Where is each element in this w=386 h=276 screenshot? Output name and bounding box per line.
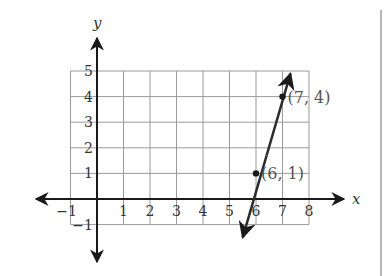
y-tick-label: 4 xyxy=(84,89,93,105)
data-point xyxy=(253,170,259,176)
y-tick-label: 1 xyxy=(84,165,93,181)
x-tick-label: 3 xyxy=(172,203,181,219)
x-tick-label: 7 xyxy=(278,203,287,219)
y-tick-label: 2 xyxy=(84,140,93,156)
x-tick-label: 2 xyxy=(146,203,155,219)
x-tick-label: 5 xyxy=(225,203,234,219)
data-point-label: (7, 4) xyxy=(288,88,331,107)
page-divider xyxy=(380,10,382,276)
grid-lines xyxy=(71,71,310,225)
data-point xyxy=(279,93,285,99)
x-tick-label: 8 xyxy=(305,203,314,219)
y-tick-label: −1 xyxy=(72,217,93,233)
y-axis-label: y xyxy=(92,14,102,32)
y-tick-label: 3 xyxy=(84,114,93,130)
x-tick-label: 1 xyxy=(119,203,128,219)
line-arrow-upper xyxy=(267,74,291,156)
x-tick-label: 4 xyxy=(199,203,208,219)
y-tick-label: 5 xyxy=(84,63,93,79)
coordinate-plane: −112345678−112345 (6, 1)(7, 4) x y xyxy=(0,0,386,276)
data-point-label: (6, 1) xyxy=(261,164,304,183)
x-axis-label: x xyxy=(352,190,361,208)
